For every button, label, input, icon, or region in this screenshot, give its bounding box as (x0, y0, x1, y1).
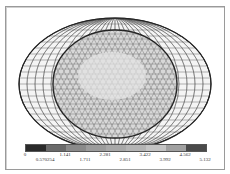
colorbar-tick-label: 5.132 (199, 157, 210, 162)
colorbar-tick-label: 1.141 (59, 152, 70, 157)
colorbar (25, 144, 207, 152)
colorbar-tick-label: 4.562 (179, 152, 190, 157)
colorbar-tick-label: 1.711 (79, 157, 90, 162)
colorbar-tick-label: 2.281 (99, 152, 110, 157)
colorbar-tick-label: 0 (24, 152, 27, 157)
colorbar-tick-label: 3.422 (139, 152, 150, 157)
colorbar-tick-label: 0.570254 (36, 157, 55, 162)
colorbar-tick-label: 3.992 (159, 157, 170, 162)
colorbar-tick-label: 2.851 (119, 157, 130, 162)
